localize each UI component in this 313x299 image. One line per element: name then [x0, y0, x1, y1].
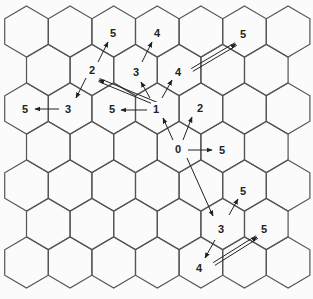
hex-cell — [70, 199, 114, 250]
cell-label-n5f: 5 — [240, 185, 246, 197]
cell-label-n2b: 2 — [89, 64, 95, 76]
hex-cell — [136, 237, 180, 288]
arrow-icon — [163, 118, 173, 140]
cell-label-n2a: 2 — [197, 102, 203, 114]
arrow-head-icon — [255, 237, 257, 238]
hex-cells — [5, 6, 310, 288]
hex-cell — [223, 83, 267, 134]
hex-cell — [223, 237, 267, 288]
hex-cell — [201, 45, 245, 96]
arrow-icon — [187, 158, 213, 216]
cell-label-n5g: 5 — [261, 223, 267, 235]
hex-cell — [245, 122, 289, 173]
cell-label-n5e: 5 — [219, 144, 225, 156]
hex-cell — [48, 160, 92, 211]
cell-label-n4a: 4 — [154, 27, 161, 39]
hex-cell — [114, 199, 158, 250]
cell-label-n0: 0 — [175, 143, 181, 155]
hex-cell — [27, 45, 71, 96]
arrow-head-icon — [99, 80, 102, 81]
double-arrow-line — [213, 236, 256, 263]
hex-cell — [157, 199, 201, 250]
hex-cell — [266, 160, 310, 211]
hex-cell — [266, 237, 310, 288]
hex-cell — [70, 122, 114, 173]
arrow-icon — [162, 80, 172, 98]
hex-cell — [27, 199, 71, 250]
cell-labels: 01223334445555555 — [20, 26, 269, 275]
cell-label-n5a: 5 — [110, 27, 116, 39]
hex-cell — [27, 122, 71, 173]
hex-cell — [48, 237, 92, 288]
cell-label-n4b: 4 — [175, 66, 182, 78]
hex-cell — [5, 160, 49, 211]
cell-label-n3b: 3 — [65, 103, 71, 115]
hex-cell — [92, 237, 136, 288]
arrow-icon — [141, 82, 150, 98]
double-arrow-line — [100, 79, 158, 103]
hex-cell — [48, 6, 92, 57]
cell-label-n5b: 5 — [240, 28, 246, 40]
cell-label-n5d: 5 — [109, 103, 115, 115]
hex-cell — [179, 160, 223, 211]
hex-cell — [114, 122, 158, 173]
cell-label-n3c: 3 — [218, 223, 224, 235]
hex-cell — [136, 160, 180, 211]
hex-grid-diagram: 01223334445555555 — [0, 0, 313, 299]
hex-cell — [266, 6, 310, 57]
cell-label-n3a: 3 — [133, 66, 139, 78]
hex-cell — [266, 83, 310, 134]
hex-cell — [92, 160, 136, 211]
hex-cell — [5, 237, 49, 288]
hex-cell — [5, 6, 49, 57]
arrow-icon — [142, 42, 152, 62]
cell-label-n1: 1 — [153, 103, 159, 115]
cell-label-n5c: 5 — [22, 103, 28, 115]
hex-cell — [179, 6, 223, 57]
cell-label-n4c: 4 — [196, 262, 203, 274]
hex-cell — [245, 45, 289, 96]
arrow-icon — [98, 42, 108, 62]
arrow-head-icon — [234, 44, 236, 45]
